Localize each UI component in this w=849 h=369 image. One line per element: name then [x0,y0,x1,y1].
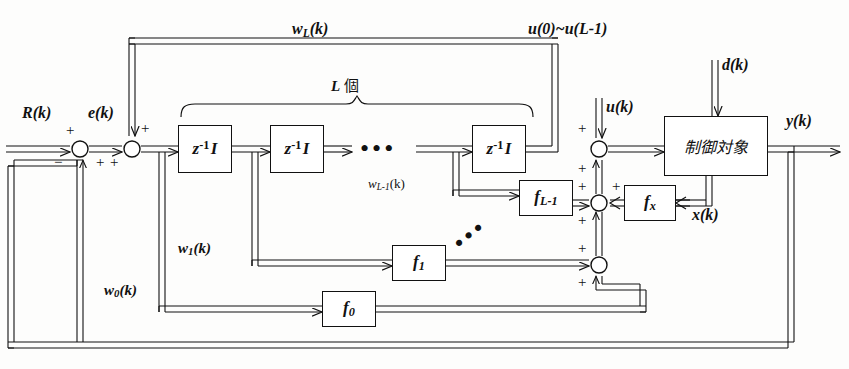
label-error: e(k) [88,104,114,122]
sign-sum-mid-left: + [578,178,586,195]
count-brace [181,96,533,117]
block-gain-f-x[interactable]: fx [624,185,676,221]
label-control-input-u: u(k) [606,98,634,116]
block-diagram-canvas: z-1 I z-1 I z-1 I fL-1 f1 f0 fx 制御対象 [0,0,849,369]
label-reference: R(k) [22,104,51,122]
block-plant[interactable]: 制御対象 [664,116,768,176]
block-gain-f-1[interactable]: f1 [392,245,446,281]
label-output-y: y(k) [786,112,812,130]
sign-sum-low-top: + [578,240,586,257]
sign-sum-u-top: + [578,120,586,137]
block-gain-f-L-minus-1[interactable]: fL-1 [519,180,573,216]
label-state-x: x(k) [692,206,719,224]
sign-sum-low-bottom: + [578,274,586,291]
block-delay-2[interactable]: z-1 I [270,125,324,173]
plant-label: 制御対象 [684,134,748,158]
label-tap-w-0: w0(k) [104,282,137,299]
label-tap-w-1: w1(k) [178,240,211,257]
sign-sum1-bottom-right: + [96,154,104,171]
sign-sum-u-bottom: + [578,160,586,177]
block-delay-1[interactable]: z-1 I [178,125,232,173]
block-delay-L[interactable]: z-1 I [472,125,526,173]
label-count-L-ko: L 個 [331,74,359,95]
label-disturbance-d: d(k) [722,56,749,74]
sign-sum2-bottom: + [110,154,118,171]
sign-sum1-top: + [66,122,74,139]
block-gain-f-0[interactable]: f0 [322,291,376,327]
label-preview-inputs: u(0)~u(L-1) [528,20,607,38]
sign-sum2-top: + [141,120,149,137]
label-tap-w-L-minus-1: wL-1(k) [368,176,405,192]
ellipsis-delay-chain: ••• [360,136,396,162]
sign-sum-mid-bottom: + [578,212,586,229]
label-preview-bus-wL: wL(k) [292,20,328,39]
sign-sum1-bottom-left: − [54,154,62,171]
sign-sum-mid-right: + [612,178,620,195]
